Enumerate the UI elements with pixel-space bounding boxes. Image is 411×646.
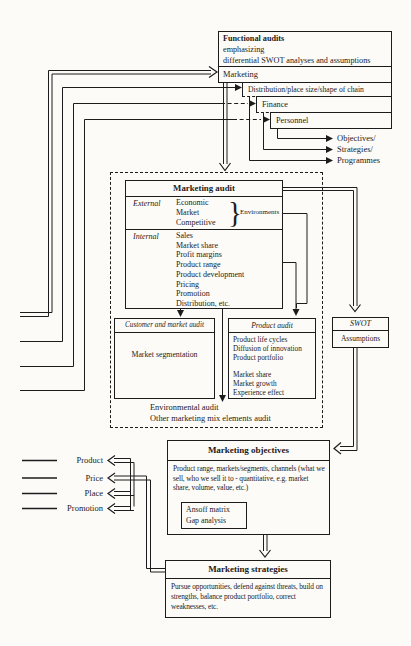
arrow-swot-to-objectives [334, 347, 357, 454]
output-programmes-label: Programmes [337, 155, 380, 166]
marketing-objectives-body: Product range, markets/segments, channel… [168, 461, 329, 493]
customer-audit-title: Customer and market audit [115, 319, 214, 333]
internal-label: Internal [133, 232, 159, 241]
swot-box: SWOT Assumptions [332, 317, 389, 348]
personnel-box: Personnel [270, 112, 392, 129]
functional-audits-box: Functional audits emphasizing differenti… [218, 31, 392, 67]
internal-items: Sales Market share Profit margins Produc… [176, 231, 244, 309]
swot-body: Assumptions [333, 331, 388, 346]
four-ps-place-label: Place [20, 488, 103, 499]
four-ps-promotion-label: Promotion [20, 503, 103, 514]
product-audit-title: Product audit [229, 319, 315, 333]
four-ps-product-label: Product [20, 455, 103, 466]
arrow-marketing-to-audit [220, 82, 231, 171]
product-audit-items: Product life cycles Diffusion of innovat… [229, 333, 315, 397]
customer-market-audit-box: Customer and market audit Market segment… [114, 318, 215, 399]
internal-section: Internal Sales Market share Profit margi… [126, 230, 282, 310]
diagram-canvas: Functional audits emphasizing differenti… [0, 0, 411, 646]
finance-box: Finance [256, 96, 392, 113]
customer-audit-body: Market segmentation [115, 350, 214, 359]
arrows-strategies-to-four-ps [108, 456, 166, 573]
marketing-strategies-body: Pursue opportunities, defend against thr… [166, 579, 330, 611]
external-section: External Economic Market Competitive } E… [126, 197, 282, 230]
marketing-audit-box: Marketing audit External Economic Market… [125, 180, 283, 309]
external-label: External [133, 199, 161, 208]
marketing-row: Marketing [218, 66, 392, 83]
output-objectives-label: Objectives/ [337, 133, 376, 144]
four-ps-price-label: Price [20, 473, 103, 484]
ansoff-gap-box: Ansoff matrix Gap analysis [181, 502, 247, 529]
marketing-objectives-title: Marketing objectives [168, 441, 329, 461]
four-ps-stub-lines [22, 461, 57, 509]
swot-title: SWOT [333, 318, 388, 331]
external-items: Economic Market Competitive [176, 198, 216, 229]
functional-audits-sub1: emphasizing [223, 44, 391, 55]
product-audit-box: Product audit Product life cycles Diffus… [228, 318, 316, 399]
environments-label: Environments [240, 208, 279, 216]
functional-audits-title: Functional audits [223, 33, 391, 44]
environmental-audit-note: Environmental audit Other marketing mix … [150, 402, 271, 424]
marketing-strategies-box: Marketing strategies Pursue opportunitie… [165, 560, 331, 618]
distribution-box: Distribution/place size/shape of chain [242, 82, 392, 97]
output-strategies-label: Strategies/ [337, 144, 373, 155]
marketing-audit-title: Marketing audit [126, 181, 282, 197]
marketing-strategies-title: Marketing strategies [166, 561, 330, 579]
marketing-objectives-box: Marketing objectives Product range, mark… [167, 440, 330, 535]
functional-audits-sub2: differential SWOT analyses and assumptio… [223, 55, 391, 66]
arrow-objectives-to-strategies [260, 535, 271, 557]
